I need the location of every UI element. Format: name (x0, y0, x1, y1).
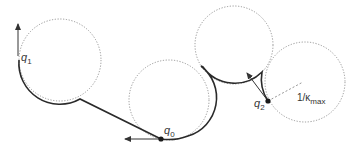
dubins-path-diagram: q1 q0 q2 1/κmax (0, 0, 362, 153)
q2-point (265, 98, 270, 103)
turning-circle-4 (265, 42, 345, 122)
path-q0-q2 (161, 66, 268, 140)
q1-label: q1 (21, 52, 32, 66)
radius-label: 1/κmax (297, 93, 325, 106)
q1-subscript: 1 (27, 57, 31, 66)
q0-subscript: 0 (170, 130, 174, 139)
radius-label-prefix: 1/κ (297, 92, 310, 103)
diagram-svg (0, 0, 362, 153)
radius-label-subscript: max (310, 97, 325, 106)
q2-subscript: 2 (260, 103, 264, 112)
q0-point (158, 136, 163, 141)
q2-label: q2 (254, 98, 265, 112)
q0-label: q0 (164, 125, 175, 139)
